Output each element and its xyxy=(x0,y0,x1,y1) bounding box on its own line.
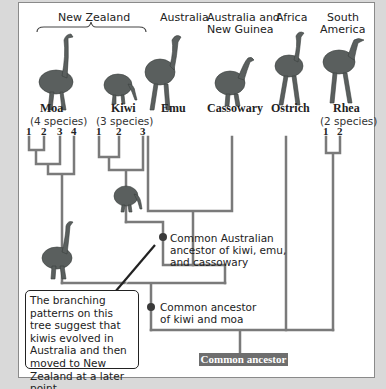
moa-tip-1: 1 xyxy=(26,125,32,137)
taxon-ostrich: Ostrich xyxy=(271,102,310,114)
rhea-tip-2: 2 xyxy=(337,125,343,137)
region-australia: Australia xyxy=(160,12,209,24)
ancestral-kiwi-icon xyxy=(114,186,142,212)
kiwi-moa-ancestor-node xyxy=(147,303,155,311)
taxon-kiwi: Kiwi xyxy=(111,102,136,114)
callout-pointer xyxy=(115,245,155,292)
kiwi-tip-2: 2 xyxy=(116,125,122,137)
kiwi-tip-1: 1 xyxy=(96,125,102,137)
kiwi-icon xyxy=(104,74,137,104)
ostrich-icon xyxy=(275,32,304,105)
callout-box: The branching patterns on this tree sugg… xyxy=(25,290,139,369)
region-australia-new-guinea-line2: New Guinea xyxy=(207,24,274,36)
moa-tip-4: 4 xyxy=(71,125,77,137)
taxon-rhea: Rhea xyxy=(333,102,360,114)
root-label: Common ancestor xyxy=(199,353,288,366)
australian-ancestor-node xyxy=(159,233,167,241)
emu-icon xyxy=(145,36,181,110)
kiwi-moa-ancestor-label: Common ancestor of kiwi and moa xyxy=(160,301,256,325)
kiwi-branches xyxy=(99,137,143,222)
rhea-icon xyxy=(323,39,364,104)
region-south-america-line2: America xyxy=(320,24,365,36)
taxon-moa: Moa xyxy=(40,102,63,114)
rhea-tip-1: 1 xyxy=(323,125,329,137)
region-new-zealand: New Zealand xyxy=(58,12,130,24)
australian-ancestor-label: Common Australian ancestor of kiwi, emu,… xyxy=(170,232,286,268)
taxon-cassowary: Cassowary xyxy=(207,102,263,114)
region-africa: Africa xyxy=(276,12,307,24)
rhea-branches xyxy=(326,137,340,330)
root-branch xyxy=(151,330,333,352)
moa-tip-3: 3 xyxy=(57,125,63,137)
kiwi-tip-3: 3 xyxy=(140,125,146,137)
moa-icon xyxy=(39,34,73,110)
moa-tip-2: 2 xyxy=(41,125,47,137)
taxon-rhea-count: (2 species) xyxy=(320,115,377,127)
taxon-emu: Emu xyxy=(161,102,186,114)
ancestral-moa-icon xyxy=(42,222,73,280)
cassowary-icon xyxy=(215,57,254,106)
